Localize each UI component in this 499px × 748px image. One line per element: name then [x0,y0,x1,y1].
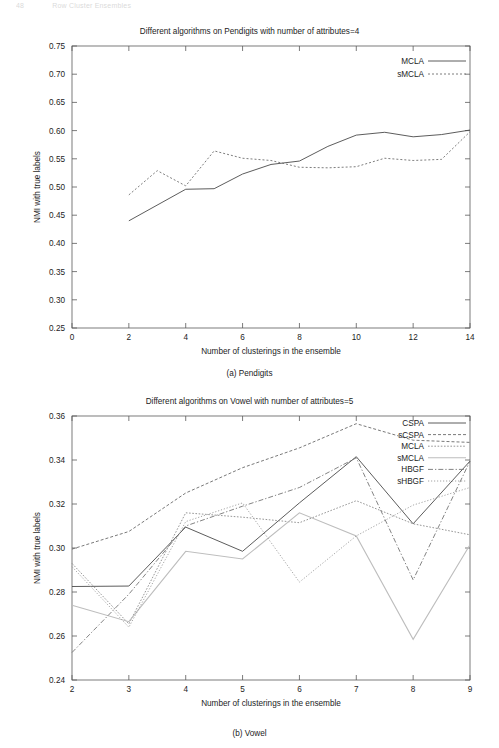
x-tick-label: 3 [127,685,132,694]
legend-label-smcla: sMCLA [397,70,424,79]
chart-title-pendigits: Different algorithms on Pendigits with n… [0,26,499,38]
x-tick-label: 8 [297,333,302,342]
figure-caption-pendigits: (a) Pendigits [0,368,499,380]
legend-label-scspa: sCSPA [398,431,424,440]
x-tick-label: 8 [411,685,416,694]
figure-pendigits: Different algorithms on Pendigits with n… [0,26,499,386]
y-tick-label: 0.45 [49,211,65,220]
x-axis-label: Number of clusterings in the ensemble [201,699,341,708]
y-tick-label: 0.30 [49,296,65,305]
x-tick-label: 14 [465,333,475,342]
x-tick-label: 4 [183,685,188,694]
y-tick-label: 0.26 [49,632,65,641]
legend-label-smcla: sMCLA [397,454,424,463]
y-tick-label: 0.70 [49,70,65,79]
y-tick-label: 0.50 [49,183,65,192]
series-line-smcla [129,132,470,195]
series-line-mcla [129,130,470,221]
running-head-left: 48 [16,2,24,12]
figure-page: 48 Row Cluster Ensembles Different algor… [0,0,499,748]
x-tick-label: 9 [468,685,473,694]
y-tick-label: 0.40 [49,239,65,248]
x-tick-label: 0 [70,333,75,342]
series-line-shbgf [72,488,470,628]
y-axis-label: NMI with true labels [33,512,42,584]
x-tick-label: 6 [240,333,245,342]
series-line-smcla [72,513,470,640]
x-axis-label: Number of clusterings in the ensemble [201,347,341,356]
chart-canvas-pendigits: 0.250.300.350.400.450.500.550.600.650.70… [0,38,499,368]
running-head: 48 Row Cluster Ensembles [16,2,483,12]
y-tick-label: 0.65 [49,98,65,107]
y-tick-label: 0.28 [49,588,65,597]
y-tick-label: 0.36 [49,412,65,421]
x-tick-label: 12 [409,333,419,342]
y-tick-label: 0.55 [49,155,65,164]
y-axis-label: NMI with true labels [33,151,42,223]
figure-vowel: Different algorithms on Vowel with numbe… [0,396,499,748]
x-tick-label: 7 [354,685,359,694]
legend-label-shbgf: sHBGF [397,477,424,486]
legend-label-mcla: MCLA [401,442,424,451]
legend-label-hbgf: HBGF [401,465,424,474]
x-tick-label: 4 [183,333,188,342]
x-tick-label: 5 [240,685,245,694]
figure-caption-vowel: (b) Vowel [0,728,499,740]
y-tick-label: 0.34 [49,456,65,465]
x-tick-label: 6 [297,685,302,694]
y-tick-label: 0.75 [49,42,65,51]
y-tick-label: 0.32 [49,500,65,509]
y-tick-label: 0.30 [49,544,65,553]
running-head-right: Row Cluster Ensembles [52,2,131,12]
series-line-mcla [72,501,470,624]
legend-label-cspa: CSPA [402,419,424,428]
y-tick-label: 0.35 [49,268,65,277]
y-tick-label: 0.25 [49,324,65,333]
x-tick-label: 10 [352,333,362,342]
y-tick-label: 0.60 [49,127,65,136]
legend-label-mcla: MCLA [401,57,424,66]
x-tick-label: 2 [70,685,75,694]
series-line-hbgf [72,458,470,653]
y-tick-label: 0.24 [49,676,65,685]
plot-frame [72,46,470,328]
chart-title-vowel: Different algorithms on Vowel with numbe… [0,396,499,408]
x-tick-label: 2 [127,333,132,342]
chart-canvas-vowel: 0.240.260.280.300.320.340.3623456789Numb… [0,408,499,728]
